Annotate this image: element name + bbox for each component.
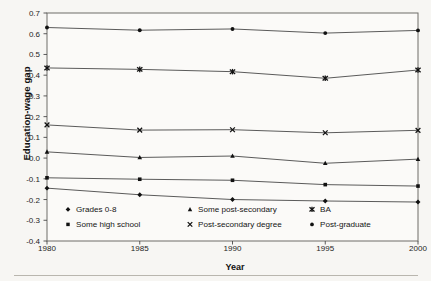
- legend-label: Some high school: [76, 220, 141, 229]
- x-tick-label: 1995: [302, 244, 348, 253]
- legend-entry: Some high school: [66, 220, 140, 229]
- y-tick-label: -0.2: [14, 195, 40, 204]
- data-point-marker: [45, 176, 49, 180]
- legend-entry: Post-graduate: [310, 220, 371, 229]
- data-point-marker: [138, 177, 142, 181]
- y-tick-label: 0.6: [14, 29, 40, 38]
- figure-container: Education-wage gap Year -0.4-0.3-0.2-0.1…: [0, 0, 431, 281]
- data-point-marker: [323, 183, 327, 187]
- y-tick-label: 0.0: [14, 154, 40, 163]
- x-axis-title: Year: [40, 262, 430, 272]
- legend-entry: Post-secondary degree: [188, 220, 282, 229]
- data-point-marker: [323, 31, 327, 35]
- figure-bottom-rule: [14, 275, 418, 276]
- chart-plot-area: Grades 0-8Some post-secondaryBASome high…: [0, 0, 431, 281]
- data-point-marker: [231, 27, 235, 31]
- data-point-marker: [138, 28, 142, 32]
- legend-marker-circle: [310, 223, 314, 227]
- data-point-marker: [231, 178, 235, 182]
- x-tick-label: 1980: [24, 244, 70, 253]
- legend-label: Post-graduate: [320, 220, 371, 229]
- y-tick-label: 0.7: [14, 9, 40, 18]
- x-tick-label: 1985: [117, 244, 163, 253]
- data-point-marker: [416, 28, 420, 32]
- y-tick-label: 0.4: [14, 71, 40, 80]
- y-tick-label: 0.3: [14, 91, 40, 100]
- legend-label: Some post-secondary: [198, 205, 278, 214]
- legend-label: Post-secondary degree: [198, 220, 282, 229]
- data-point-marker: [416, 184, 420, 188]
- y-tick-label: 0.2: [14, 112, 40, 121]
- y-tick-label: -0.1: [14, 174, 40, 183]
- y-tick-label: 0.5: [14, 50, 40, 59]
- legend-label: BA: [320, 205, 331, 214]
- legend-label: Grades 0-8: [76, 205, 117, 214]
- x-tick-label: 2000: [395, 244, 431, 253]
- legend-marker-square: [66, 223, 69, 226]
- y-tick-label: 0.1: [14, 133, 40, 142]
- legend-entry: Some post-secondary: [188, 205, 278, 214]
- data-point-marker: [45, 26, 49, 30]
- y-tick-label: -0.3: [14, 216, 40, 225]
- x-tick-label: 1990: [210, 244, 256, 253]
